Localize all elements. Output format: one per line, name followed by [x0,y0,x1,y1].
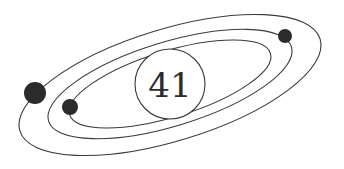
central-number-label: 41 [148,65,191,105]
orbital-diagram: 41 [0,0,344,169]
small-planet-left [62,99,78,115]
large-planet [24,82,46,104]
small-planet-right [278,29,292,43]
